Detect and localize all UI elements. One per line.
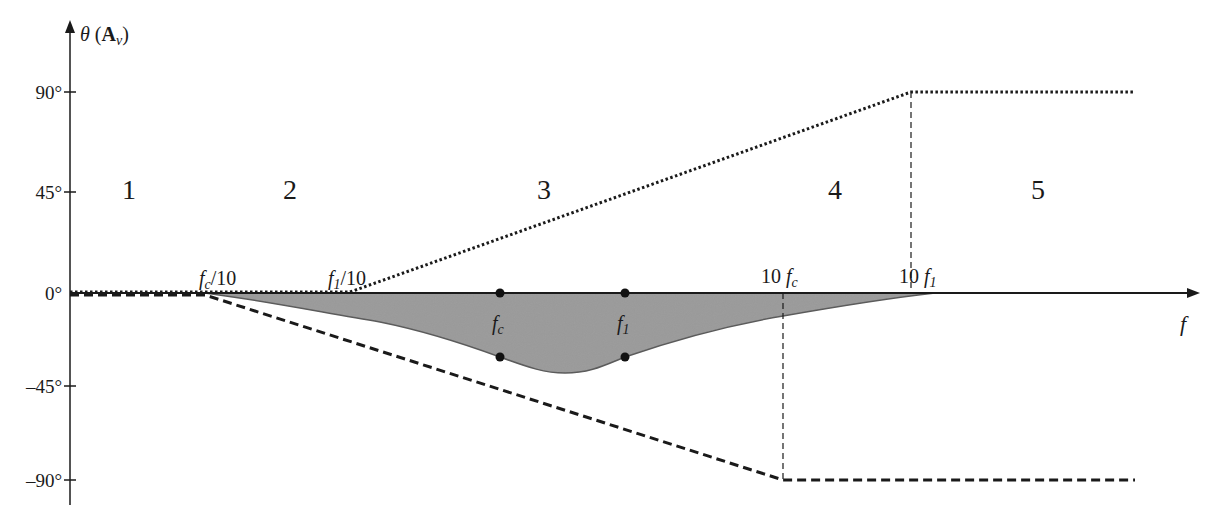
label-10fc: 10 fc — [761, 266, 798, 293]
y-axis-paren-close: ) — [122, 23, 129, 45]
bp2-sub: c — [498, 322, 504, 337]
point-f1-curve — [621, 353, 630, 362]
region-5: 5 — [1031, 176, 1045, 204]
point-fc-curve — [496, 353, 505, 362]
y-axis-title: θ (Av) — [80, 24, 129, 51]
bp4-prefix: 10 — [761, 265, 786, 287]
label-f1: f1 — [617, 313, 630, 340]
ytick-label-45: 45° — [0, 183, 62, 202]
bp1-tail: /10 — [341, 267, 367, 289]
bp5-prefix: 10 — [899, 265, 924, 287]
y-axis-symbol: θ — [80, 23, 90, 45]
y-axis-paren-open: ( — [90, 23, 102, 45]
bp0-tail: /10 — [211, 267, 237, 289]
x-axis-title: f — [1180, 314, 1186, 334]
region-3: 3 — [537, 176, 551, 204]
bp3-sub: 1 — [623, 322, 630, 337]
region-2: 2 — [283, 176, 297, 204]
label-fc: fc — [492, 313, 504, 340]
ytick-label-neg45: –45° — [0, 377, 62, 396]
point-f1-axis — [621, 289, 630, 298]
ytick-label-neg90: –90° — [0, 471, 62, 490]
point-fc-axis — [496, 289, 505, 298]
label-f1-over-10: f1/10 — [328, 268, 366, 295]
bp1-sub: 1 — [334, 277, 341, 292]
y-axis-bold-A: A — [102, 23, 116, 45]
region-4: 4 — [828, 176, 842, 204]
label-fc-over-10: fc/10 — [199, 268, 236, 295]
region-1: 1 — [122, 176, 136, 204]
label-10f1: 10 f1 — [899, 266, 937, 293]
bp4-sub: c — [792, 275, 798, 290]
x-axis-arrow-icon — [1187, 288, 1200, 298]
ytick-label-90: 90° — [0, 83, 62, 102]
y-axis-arrow-icon — [65, 20, 75, 33]
zero-asymptote-dotted — [70, 92, 1135, 292]
ytick-label-0: 0° — [0, 284, 62, 303]
phase-plot — [0, 0, 1216, 519]
bp5-sub: 1 — [930, 275, 937, 290]
